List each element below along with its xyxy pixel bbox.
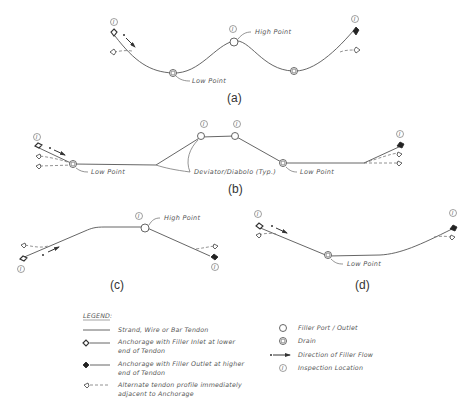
alternate-profile-right-a (340, 50, 356, 52)
alternate-profile-right-b1 (364, 153, 398, 163)
high-point-leader-c (149, 218, 160, 225)
legend-filler-port-label: Filler Port / Outlet (298, 324, 358, 331)
drain-b-left (70, 161, 77, 168)
tendon-b (37, 136, 401, 165)
tendon-d (258, 227, 452, 256)
inspection-icon: I (18, 266, 25, 273)
anchorage-inlet-a (111, 29, 117, 36)
inspection-icon: I (352, 16, 359, 23)
low-point-label-a: Low Point (192, 77, 226, 85)
diagram-c: I I I High Point (c) (18, 213, 219, 293)
flow-arrow-tail-a (123, 34, 125, 36)
diagram-a: I I I High Point Low Point (a) (110, 16, 360, 106)
caption-a: (a) (227, 91, 242, 105)
filler-port-icon (280, 325, 287, 332)
inspection-icon: I (111, 19, 118, 26)
tendon-a (115, 30, 354, 73)
alternate-anchor-left-b2 (36, 164, 41, 169)
inspection-icon: I (450, 210, 457, 217)
alternate-anchor-left-a (110, 49, 116, 55)
tendon-profiles-diagram: I I I High Point Low Point (a) (0, 0, 472, 410)
flow-arrow-icon-c (48, 247, 59, 252)
anchorage-outlet-a (353, 27, 359, 35)
alternate-profile-left-c (25, 245, 48, 247)
caption-c: (c) (110, 278, 124, 292)
alternate-anchor-left-b1 (36, 154, 41, 159)
low-point-label-d: Low Point (347, 260, 381, 268)
anchorage-inlet-b (35, 143, 42, 148)
high-point-leader-a (238, 32, 251, 39)
anchorage-outlet-d (450, 225, 457, 231)
inspection-icon: I (201, 121, 208, 128)
flow-arrow-icon-d (276, 228, 287, 233)
alternate-anchor-right-b1 (397, 152, 402, 157)
alternate-anchor-icon (84, 383, 89, 388)
drain-a-right (291, 68, 298, 75)
legend-inlet-label-1: Anchorage with Filler Inlet at lower (117, 338, 236, 346)
inspection-icon: I (230, 26, 237, 33)
port-b-1 (198, 133, 205, 140)
caption-d: (d) (355, 278, 370, 292)
inspection-icon: I (280, 365, 287, 372)
alternate-profile-right-d (434, 236, 451, 237)
drain-b-right (280, 160, 287, 167)
caption-b: (b) (228, 182, 243, 196)
legend: LEGEND: Strand, Wire or Bar Tendon Ancho… (83, 312, 374, 398)
inspection-icon: I (255, 211, 262, 218)
alternate-profile-left-b1 (40, 156, 73, 164)
alternate-anchor-left-c (21, 243, 26, 248)
inspection-icon: I (136, 213, 143, 220)
legend-drain-label: Drain (298, 337, 316, 344)
drain-a-left (170, 70, 177, 77)
legend-title: LEGEND: (83, 312, 112, 319)
legend-alternate-label-1: Alternate tendon profile immediately (117, 381, 242, 389)
inspection-icon: I (212, 264, 219, 271)
diagram-d: I I Low Point (d) (255, 210, 458, 293)
high-point-port-c (141, 224, 149, 232)
deviator-label: Deviator/Diabolo (Typ.) (194, 168, 276, 176)
alternate-anchor-right-b2 (397, 161, 402, 166)
high-point-label-c: High Point (164, 214, 201, 222)
inspection-icon: I (397, 131, 404, 138)
diagram-b: I I I I Low Point Deviator/Diabolo (Typ.… (34, 121, 405, 197)
alternate-profile-left-b2 (40, 165, 73, 166)
alternate-anchor-right-a (354, 47, 360, 53)
legend-inspection-label: Inspection Location (298, 364, 363, 372)
legend-outlet-label-2: end of Tendon (118, 369, 165, 376)
low-point-label-b-left: Low Point (91, 168, 125, 176)
low-point-label-b-right: Low Point (300, 168, 334, 176)
anchorage-inlet-d (256, 223, 263, 229)
port-b-2 (232, 133, 239, 140)
legend-outlet-label-1: Anchorage with Filler Outlet at higher (117, 360, 244, 368)
anchorage-outlet-icon (83, 362, 89, 368)
legend-strand-label: Strand, Wire or Bar Tendon (118, 326, 209, 333)
deviator-leader-1 (156, 165, 190, 172)
flow-arrow-icon-a (126, 38, 135, 47)
high-point-port-a (230, 38, 238, 46)
legend-alternate-label-2: adjacent to Anchorage (118, 390, 194, 398)
anchorage-inlet-icon (83, 340, 89, 346)
inspection-icon: I (234, 121, 241, 128)
low-point-leader-d (331, 259, 343, 264)
flow-arrow-legend-tail (270, 354, 272, 356)
inspection-icon: I (34, 134, 41, 141)
alternate-profile-right-c (196, 246, 214, 249)
flow-arrow-icon-b (54, 150, 65, 155)
legend-flow-label: Direction of Filler Flow (298, 351, 374, 358)
anchorage-outlet-c (211, 254, 218, 260)
high-point-label-a: High Point (255, 28, 292, 36)
low-point-leader-b-left (76, 168, 88, 172)
drain-d (325, 252, 332, 259)
alternate-anchor-left-d (256, 233, 261, 238)
flow-arrow-tail-d (271, 225, 273, 227)
flow-arrow-tail-b (49, 147, 51, 149)
flow-arrow-tail-c (42, 254, 44, 256)
drain-icon (280, 338, 287, 345)
alternate-anchor-right-c (213, 244, 218, 249)
legend-inlet-label-2: end of Tendon (118, 347, 165, 354)
alternate-anchor-right-d (450, 235, 455, 240)
alternate-profile-left-a (114, 51, 132, 52)
low-point-leader-b-right (286, 167, 297, 172)
tendon-c (22, 227, 210, 258)
low-point-leader-a (176, 76, 190, 81)
